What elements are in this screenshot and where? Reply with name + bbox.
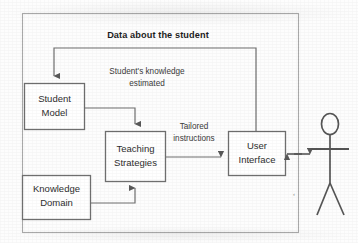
actor-leg-right xyxy=(330,183,344,215)
student-model-box[interactable] xyxy=(25,84,85,130)
actor-leg-left xyxy=(317,183,330,215)
scan-artifact-mark: ‹ xyxy=(293,191,295,197)
diagram-canvas: ‹ xyxy=(0,0,358,243)
knowledge-domain-box[interactable] xyxy=(23,176,91,220)
teaching-strategies-box[interactable] xyxy=(106,132,166,182)
user-interface-box[interactable] xyxy=(229,132,286,176)
student-actor[interactable] xyxy=(311,114,349,216)
diagram-root: ‹ Data about the student Student Model K… xyxy=(0,0,358,243)
actor-head-icon xyxy=(322,114,339,135)
edge-knowledge-to-teaching xyxy=(90,188,135,203)
edge-student-knowledge-estimated xyxy=(84,108,135,124)
